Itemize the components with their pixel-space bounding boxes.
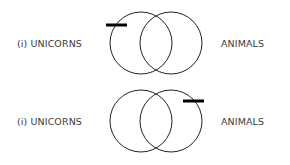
venn-diagrams-canvas <box>0 0 290 165</box>
unicorns-circle <box>110 90 172 152</box>
animals-label: ANIMALS <box>221 38 264 49</box>
animals-circle <box>140 90 202 152</box>
animals-circle <box>140 12 202 74</box>
venn-diagram-2 <box>110 90 204 152</box>
venn-diagram-1 <box>106 12 202 74</box>
unicorns-label: (i) UNICORNS <box>17 116 82 127</box>
animals-label: ANIMALS <box>221 116 264 127</box>
unicorns-circle <box>110 12 172 74</box>
unicorns-label: (i) UNICORNS <box>17 38 82 49</box>
